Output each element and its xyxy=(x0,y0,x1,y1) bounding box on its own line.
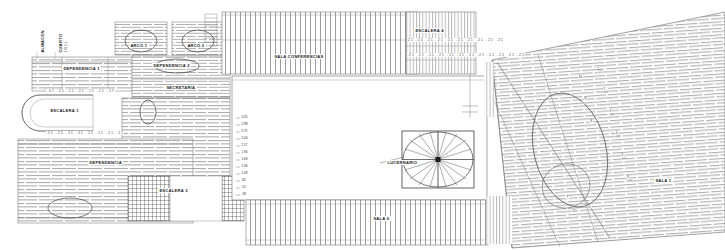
label-escalera-1: ESCALERA 1 xyxy=(49,108,80,113)
right-marker-value: 3 xyxy=(609,110,612,113)
right-marker-value: 6 xyxy=(627,176,630,179)
label-secretaria: SECRETARIA xyxy=(165,85,197,90)
right-marker-value: 10 xyxy=(578,76,582,79)
dimension-escalera-1-bottom: .21 .21 .21 .21 .21 .21 .21 .21 xyxy=(46,131,124,135)
vertical-scale-value: .55 xyxy=(241,186,246,189)
label-almacen: ALMACEN xyxy=(40,29,45,54)
vertical-scale-value: .28 xyxy=(241,193,246,196)
label-arco-2: ARCO 2 xyxy=(186,43,206,48)
label-arco-1: ARCO 1 xyxy=(129,43,149,48)
right-marker-value: 7 xyxy=(566,196,569,199)
label-dependencia-3: DEPENDENCIA xyxy=(88,160,123,165)
vertical-scale-value: 1.09 xyxy=(241,172,248,175)
zone-sala-conferencias xyxy=(222,12,418,74)
floor-plan-drawing: ALMACEN CUARTO 1 N 2 L DEPENDENCIA 1 DEP… xyxy=(0,0,725,251)
right-marker-value: 2 xyxy=(603,88,606,91)
zone-sala-6 xyxy=(246,200,488,245)
dimension-escalera-1-top: 1.07 .21 .21 .21 .21 .21 .17 xyxy=(44,89,115,93)
label-cuarto-sub: 1 N 2 L xyxy=(64,40,68,54)
label-sala-1: SALA 1 xyxy=(654,178,673,183)
plan-vector-canvas xyxy=(0,0,725,251)
right-marker-value: 4 xyxy=(615,132,618,135)
right-marker-value: 11 xyxy=(572,210,576,213)
label-escalera-3: ESCALERA 3 xyxy=(158,188,189,193)
label-dependencia-2: DEPENDENCIA 2 xyxy=(152,63,191,68)
right-marker-value: 8 xyxy=(590,120,593,123)
label-sala-6: SALA 6 xyxy=(372,216,391,221)
vertical-scale-value: 2.17 xyxy=(241,144,248,147)
vertical-scale-value: 3.25 xyxy=(241,116,248,119)
label-escalera-4: ESCALERA 4 xyxy=(414,28,445,33)
label-sala-conferencias: SALA CONFERENCIAS xyxy=(273,54,325,59)
vertical-scale-value: 2.98 xyxy=(241,123,248,126)
label-lucernario: LUCERNARIO xyxy=(386,160,419,165)
right-marker-value: 5 xyxy=(621,154,624,157)
right-marker-value: 9 xyxy=(584,98,587,101)
vertical-scale-value: .82 xyxy=(241,179,246,182)
vertical-scale-value: 1.36 xyxy=(241,165,248,168)
vertical-scale-value: 1.63 xyxy=(241,158,248,161)
vertical-scale-value: 2.44 xyxy=(241,137,248,140)
right-marker-value: 1 xyxy=(597,66,600,69)
dimension-escalera-4-row1: 21 .21 .21 .21 .21 .21 .21 .21 .21 .21 xyxy=(408,38,504,42)
dimension-escalera-4-row2: .21 .21 .21 .21 .21 .21 .21 .21 .21 .21 … xyxy=(407,53,525,57)
vertical-scale-value: 2.71 xyxy=(241,130,248,133)
zone-escalera-4 xyxy=(406,12,476,74)
label-cuarto: CUARTO xyxy=(58,32,63,54)
label-dependencia-1: DEPENDENCIA 1 xyxy=(62,66,101,71)
zone-escalera-3 xyxy=(128,176,244,221)
vertical-scale-value: 1.90 xyxy=(241,151,248,154)
